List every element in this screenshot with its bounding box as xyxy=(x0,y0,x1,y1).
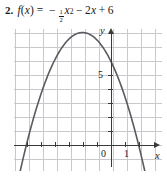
parabola-curve xyxy=(14,29,162,171)
x-axis-tick xyxy=(55,142,56,147)
x-tick-label-1: 1 xyxy=(124,149,129,159)
constant-term: 6 xyxy=(108,5,114,17)
y-axis-tick xyxy=(108,103,113,104)
problem-number: 2. xyxy=(5,5,13,16)
leading-minus-sign: − xyxy=(49,5,56,17)
second-minus-sign: − xyxy=(76,5,83,17)
origin-label: 0 xyxy=(101,149,106,159)
y-axis-tick xyxy=(108,117,113,118)
y-axis-tick xyxy=(108,131,113,132)
y-axis-label: y xyxy=(100,26,105,37)
equals-sign: = xyxy=(37,5,44,17)
fraction-denominator: 2 xyxy=(59,16,64,24)
x-axis-tick xyxy=(83,142,84,147)
graph-plot-area: y x 0 1 5 xyxy=(14,29,162,171)
x-axis-label: x xyxy=(155,151,160,162)
y-axis xyxy=(111,33,112,167)
x-axis-tick xyxy=(69,142,70,147)
plus-sign: + xyxy=(99,5,106,17)
x-axis-tick-one xyxy=(125,142,126,147)
x-axis-tick xyxy=(41,142,42,147)
y-axis-arrow xyxy=(108,28,114,34)
linear-term-variable: x xyxy=(91,5,96,17)
x-axis-tick xyxy=(139,142,140,147)
y-axis-tick-five xyxy=(108,75,113,76)
x-axis-arrow xyxy=(154,142,160,148)
x-axis-tick xyxy=(27,142,28,147)
y-axis-tick xyxy=(108,89,113,90)
quadratic-term-variable: x xyxy=(64,5,69,17)
y-tick-label-5: 5 xyxy=(98,70,103,80)
paren-close: ) xyxy=(30,5,34,17)
x-axis-tick xyxy=(97,142,98,147)
parabola-problem-figure: 2. f(x) = −12x2 −2x +6 xyxy=(0,0,167,177)
problem-statement: 2. f(x) = −12x2 −2x +6 xyxy=(5,5,165,25)
